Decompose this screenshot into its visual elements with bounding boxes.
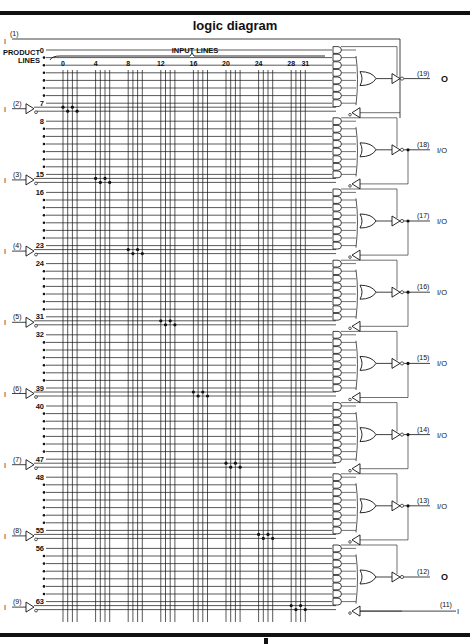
output-inverter-icon <box>392 74 400 84</box>
or-bus <box>356 270 358 319</box>
and-gate-icon <box>333 227 341 234</box>
ellipsis-dot <box>43 356 46 359</box>
connection-dot <box>257 533 260 536</box>
connection-dot <box>290 604 293 607</box>
ellipsis-dot <box>43 412 46 415</box>
input-pin-label: (7) <box>13 456 22 464</box>
ellipsis-dot <box>43 293 46 296</box>
input-type-label: I <box>4 248 6 255</box>
output-inverter-icon <box>392 287 400 297</box>
and-gate-icon <box>333 553 341 560</box>
connection-dot <box>266 533 269 536</box>
input-buffer-icon <box>26 602 34 612</box>
and-gate-icon <box>333 69 341 76</box>
invert-bubble-icon <box>349 256 352 259</box>
ellipsis-dot <box>43 285 46 288</box>
and-gate-icon <box>333 62 341 69</box>
or-bus <box>356 483 358 532</box>
input-type-label: I <box>4 319 6 326</box>
product-line-number: 24 <box>36 259 45 268</box>
invert-bubble-icon <box>400 219 403 222</box>
output-type-label: O <box>441 572 448 582</box>
and-gate-icon <box>333 489 341 496</box>
and-gate-icon <box>333 598 341 605</box>
and-gate-icon <box>333 197 341 204</box>
product-line-number: 55 <box>36 526 44 535</box>
and-gate-icon <box>333 189 341 196</box>
ellipsis-dot <box>43 79 46 82</box>
output-pin-label: (15) <box>417 354 429 362</box>
invert-bubble-icon <box>349 541 352 544</box>
ellipsis-dot <box>43 555 46 558</box>
connection-dot <box>169 319 172 322</box>
and-gate-icon <box>333 362 341 369</box>
connection-dot <box>271 537 274 540</box>
ellipsis-dot <box>43 56 46 59</box>
ellipsis-dot <box>43 229 46 232</box>
product-line-number: 7 <box>40 99 44 108</box>
ellipsis-dot <box>43 570 46 573</box>
ellipsis-dot <box>43 484 46 487</box>
connection-dot <box>103 177 106 180</box>
input-type-label: I <box>4 462 6 469</box>
feedback-buffer-icon <box>352 535 360 545</box>
invert-bubble-icon <box>35 609 38 612</box>
and-gate-icon <box>333 163 341 170</box>
and-gate-icon <box>333 313 341 320</box>
ellipsis-dot <box>43 428 46 431</box>
output-pin-label: (12) <box>417 568 429 576</box>
ellipsis-dot <box>43 300 46 303</box>
feedback-buffer-icon <box>352 393 360 403</box>
and-gate-icon <box>333 331 341 338</box>
ellipsis-dot <box>43 506 46 509</box>
ellipsis-dot <box>43 278 46 281</box>
output-type-label: I/O <box>437 502 447 511</box>
and-gate-icon <box>333 425 341 432</box>
connection-dot <box>262 537 265 540</box>
output-type-label: O <box>441 74 448 84</box>
ellipsis-dot <box>43 72 46 75</box>
and-gate-icon <box>333 474 341 481</box>
product-line-number: 48 <box>36 473 44 482</box>
and-gate-icon <box>333 369 341 376</box>
invert-bubble-icon <box>35 253 38 256</box>
input-type-label: I <box>4 604 6 611</box>
input-pin-label: (8) <box>13 527 22 535</box>
or-bus <box>356 341 358 390</box>
connection-dot <box>192 390 195 393</box>
ellipsis-dot <box>43 143 46 146</box>
product-line-number: 39 <box>36 384 44 393</box>
input-column-number: 8 <box>126 60 130 67</box>
and-gate-icon <box>333 148 341 155</box>
product-line-number: 23 <box>36 241 44 250</box>
connection-dot <box>108 181 111 184</box>
and-gate-icon <box>333 156 341 163</box>
output-type-label: I/O <box>437 431 447 440</box>
output-pin-label: (14) <box>417 426 429 434</box>
connection-dot <box>127 248 130 251</box>
invert-bubble-icon <box>400 362 403 365</box>
and-gate-icon <box>333 575 341 582</box>
output-inverter-icon <box>392 358 400 368</box>
or-gate-icon <box>360 570 376 584</box>
ellipsis-dot <box>43 443 46 446</box>
input-type-label: I <box>4 533 6 540</box>
input-type-label: I <box>4 391 6 398</box>
connection-dot <box>164 323 167 326</box>
input-column-number: 24 <box>255 60 263 67</box>
ellipsis-dot <box>43 578 46 581</box>
input-pin-label: (4) <box>13 242 22 250</box>
input-column-number: 20 <box>222 60 230 67</box>
and-gate-icon <box>333 141 341 148</box>
and-gate-icon <box>333 283 341 290</box>
input-buffer-icon <box>26 531 34 541</box>
and-gate-icon <box>333 204 341 211</box>
and-gate-icon <box>333 212 341 219</box>
and-gate-icon <box>333 219 341 226</box>
and-gate-icon <box>333 347 341 354</box>
and-gate-icon <box>333 497 341 504</box>
ellipsis-dot <box>43 514 46 517</box>
ellipsis-dot <box>43 593 46 596</box>
input-column-number: 31 <box>301 60 309 67</box>
product-line-number: 16 <box>36 188 44 197</box>
